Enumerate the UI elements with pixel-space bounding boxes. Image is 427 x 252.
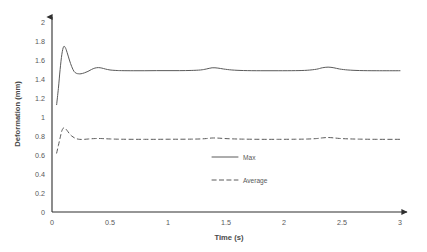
y-tick-label: 0.2 [35,189,45,198]
y-axis-title: Deformation (mm) [13,81,22,147]
x-tick-label: 1.5 [221,218,231,227]
x-tick-label: 1 [166,218,170,227]
y-tick-label: 1 [41,113,45,122]
y-tick-label: 1.4 [35,75,45,84]
chart-legend: Max Average [212,154,268,185]
legend-label-average: Average [243,177,268,185]
x-axis-tick-labels: 00.511.522.53 [50,218,402,227]
series-line-average [57,128,400,153]
x-tick-label: 0.5 [105,218,115,227]
deformation-vs-time-chart: 00.20.40.60.811.21.41.61.82 00.511.522.5… [0,0,427,252]
x-axis-title: Time (s) [215,233,244,242]
x-tick-label: 3 [398,218,402,227]
x-tick-label: 2.5 [337,218,347,227]
y-tick-label: 0.8 [35,132,45,141]
y-tick-label: 0.4 [35,170,45,179]
x-tick-label: 0 [50,218,54,227]
y-tick-label: 1.2 [35,94,45,103]
y-tick-label: 1.6 [35,56,45,65]
legend-label-max: Max [243,154,256,161]
y-tick-label: 0.6 [35,151,45,160]
y-tick-label: 2 [41,18,45,27]
y-axis-tick-labels: 00.20.40.60.811.21.41.61.82 [35,18,45,217]
y-tick-label: 0 [41,208,45,217]
chart-canvas: 00.20.40.60.811.21.41.61.82 00.511.522.5… [0,0,427,252]
x-tick-label: 2 [282,218,286,227]
series-line-max [57,46,400,104]
y-tick-label: 1.8 [35,37,45,46]
